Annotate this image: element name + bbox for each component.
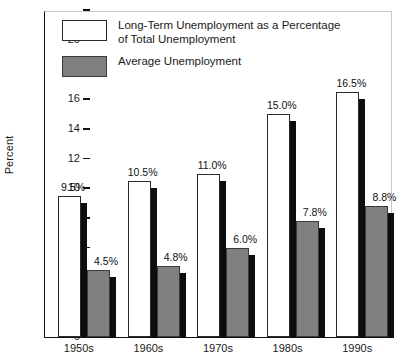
bar-value-label: 15.0%	[260, 99, 304, 111]
legend-swatch	[62, 56, 107, 77]
legend-item: Long-Term Unemployment as a Percentage o…	[62, 19, 362, 46]
bar-shadow	[358, 99, 365, 338]
bar-value-label: 8.8%	[362, 191, 402, 203]
bar: 8.8%	[365, 206, 395, 337]
legend-item: Average Unemployment	[62, 55, 362, 77]
bar-shadow	[80, 203, 87, 338]
bar: 4.5%	[87, 270, 117, 337]
bar: 7.8%	[296, 221, 326, 337]
bar: 4.8%	[157, 266, 187, 337]
bar-body	[336, 92, 359, 337]
x-axis-label: 1990s	[322, 342, 392, 354]
bar-chart: Percent 02468101214161820 9.5%4.5%10.5%4…	[0, 0, 402, 359]
bar-value-label: 10.5%	[121, 166, 165, 178]
x-axis-label: 1980s	[253, 342, 323, 354]
bar-shadow	[289, 121, 296, 338]
bar-body	[197, 174, 220, 338]
bar-body	[365, 206, 388, 337]
y-axis-title: Percent	[3, 125, 15, 185]
legend-label: Average Unemployment	[118, 55, 241, 69]
bar-body	[157, 266, 180, 337]
x-axis-label: 1970s	[183, 342, 253, 354]
bar-value-label: 11.0%	[190, 159, 234, 171]
bar: 16.5%	[336, 92, 366, 337]
bar: 15.0%	[267, 114, 297, 337]
bar-body	[296, 221, 319, 337]
y-tick-mark	[83, 9, 90, 11]
bar-shadow	[387, 213, 394, 338]
bar-body	[267, 114, 290, 337]
bar: 11.0%	[197, 174, 227, 338]
bar-body	[58, 196, 81, 337]
bar-body	[226, 248, 249, 337]
chart-legend: Long-Term Unemployment as a Percentage o…	[62, 19, 362, 77]
bar-value-label: 16.5%	[329, 77, 373, 89]
bar-body	[87, 270, 110, 337]
bar-shadow	[150, 188, 157, 338]
bar-shadow	[219, 181, 226, 339]
bar-body	[128, 181, 151, 337]
bar: 6.0%	[226, 248, 256, 337]
legend-swatch	[62, 20, 107, 41]
legend-label: Long-Term Unemployment as a Percentage o…	[118, 19, 340, 46]
bar-value-label: 9.5%	[51, 181, 95, 193]
x-axis-label: 1950s	[44, 342, 114, 354]
x-axis-label: 1960s	[113, 342, 183, 354]
